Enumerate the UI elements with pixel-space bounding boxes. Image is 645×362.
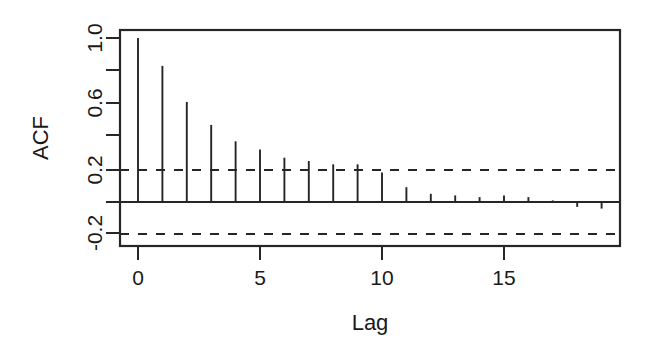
y-tick-label-1.0: 1.0 [83, 23, 106, 52]
acf-plot-figure: 1.0 0.6 0.2 -0.2 ACF 0 5 10 15 Lag [0, 0, 645, 362]
plot-panel-box [120, 30, 620, 246]
acf-plot-canvas: 1.0 0.6 0.2 -0.2 ACF 0 5 10 15 Lag [0, 0, 645, 362]
x-tick-label-10: 10 [370, 266, 393, 289]
y-tick-label-0.2: 0.2 [83, 155, 106, 184]
x-tick-label-5: 5 [254, 266, 266, 289]
x-tick-label-15: 15 [492, 266, 515, 289]
y-tick-label--0.2: -0.2 [83, 215, 106, 251]
y-axis-title: ACF [28, 116, 53, 160]
acf-spike-group [138, 38, 602, 209]
y-tick-label-0.6: 0.6 [83, 88, 106, 117]
x-axis [138, 246, 504, 260]
y-axis [106, 38, 120, 233]
x-axis-title: Lag [352, 310, 389, 335]
x-tick-label-0: 0 [132, 266, 144, 289]
